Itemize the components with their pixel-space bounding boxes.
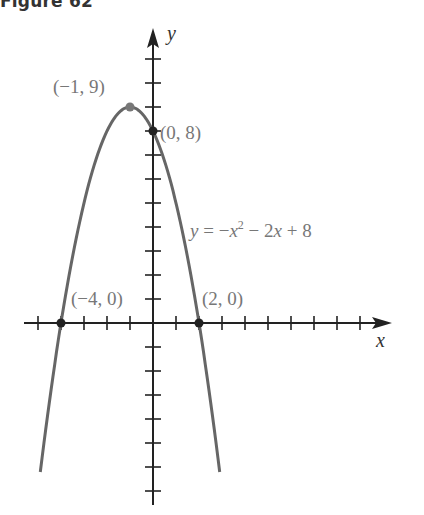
x-axis-label: x (375, 329, 385, 351)
parabola-plot: (−1, 9) (0, 8) (−4, 0) (2, 0) y = −x2 − … (0, 0, 424, 515)
y-axis-label: y (165, 22, 176, 45)
axes (24, 28, 392, 505)
point-marker (57, 319, 66, 328)
x-intercept-left-label: (−4, 0) (71, 288, 123, 310)
y-intercept-label: (0, 8) (160, 122, 201, 144)
point-marker (195, 319, 204, 328)
parabola-curve (40, 107, 219, 472)
vertex-label: (−1, 9) (53, 76, 105, 98)
equation-label: y = −x2 − 2x + 8 (188, 218, 312, 241)
x-intercept-right-label: (2, 0) (202, 288, 243, 310)
point-marker (126, 103, 135, 112)
point-marker (149, 127, 158, 136)
